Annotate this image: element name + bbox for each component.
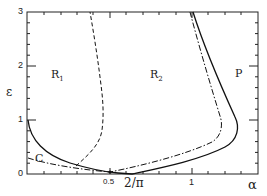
y-tick-3: 3 [18, 6, 23, 16]
y-ticks-right [249, 23, 258, 163]
curve-c-label: C [35, 152, 43, 165]
y-ticks-left [27, 23, 36, 163]
x-axis-label: α [248, 177, 257, 192]
x-tick-1: 1 [189, 177, 194, 187]
y-tick-2: 2 [18, 60, 23, 70]
region-p-label: P [235, 67, 242, 80]
triple-point [109, 171, 112, 174]
region-r1-label: R1 [51, 68, 64, 83]
x-tick-05: 0.5 [103, 177, 114, 186]
plot-frame [27, 12, 258, 174]
y-tick-0: 0 [18, 168, 23, 178]
y-tick-1: 1 [18, 114, 23, 124]
y-axis-label: ε [6, 85, 12, 99]
dashdot-curve [28, 12, 221, 172]
phase-diagram-plot [0, 0, 267, 196]
x-ticks [44, 12, 241, 174]
dashed-curve [76, 12, 103, 166]
solid-curve [28, 12, 238, 174]
x-tick-2pi: 2/π [124, 176, 144, 190]
region-r2-label: R2 [150, 68, 163, 83]
